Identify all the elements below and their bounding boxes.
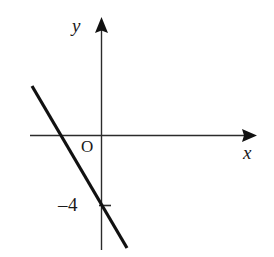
y-axis-label: y — [72, 16, 80, 35]
x-axis-label: x — [243, 143, 251, 162]
graph-figure: y x O –4 — [0, 0, 274, 257]
x-axis-arrowhead-icon — [242, 129, 257, 142]
plotted-line — [32, 86, 127, 248]
y-intercept-label: –4 — [58, 195, 78, 214]
coordinate-plane-svg — [0, 0, 274, 257]
origin-label: O — [81, 138, 93, 155]
